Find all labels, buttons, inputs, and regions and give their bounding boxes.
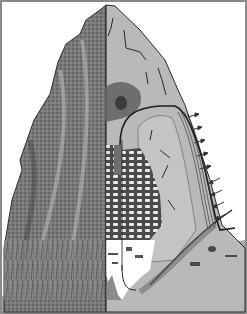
grass — [4, 240, 104, 300]
termite-mound-illustration — [0, 0, 247, 314]
illustration-canvas — [0, 0, 247, 314]
chimney-shaft — [114, 145, 122, 175]
chamber-hole — [115, 96, 127, 110]
